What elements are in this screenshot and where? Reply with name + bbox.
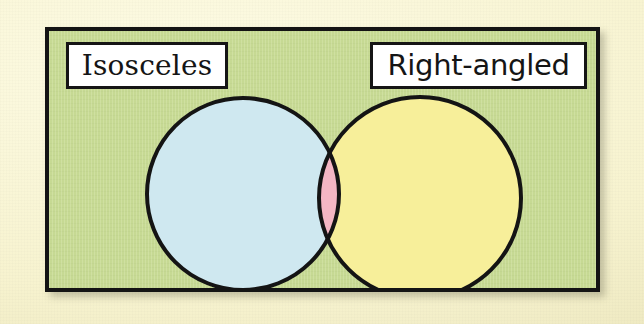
left-set-label-text: Isosceles (82, 52, 213, 80)
left-set-label[interactable]: Isosceles (66, 42, 228, 89)
diagram-canvas: Isosceles Right-angled (0, 0, 644, 324)
right-set-label-text: Right-angled (387, 51, 569, 80)
venn-diagram-panel: Isosceles Right-angled (45, 27, 600, 292)
right-set-label[interactable]: Right-angled (370, 42, 587, 89)
